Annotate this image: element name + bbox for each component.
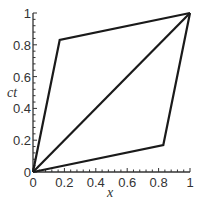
y-tick-label: 0.2 xyxy=(13,133,31,148)
spacetime-diagram: 00.20.40.60.81 00.20.40.60.81 x ct xyxy=(0,0,200,206)
x-tick-label: 0.6 xyxy=(118,175,136,190)
y-tick-label: 0.6 xyxy=(13,70,31,85)
x-axis-label: x xyxy=(106,185,114,200)
y-axis-label: ct xyxy=(7,85,18,100)
y-tick-label: 0 xyxy=(24,165,31,180)
y-tick-label: 0.8 xyxy=(13,38,31,53)
x-tick-label: 0.2 xyxy=(55,175,73,190)
diagonal-line xyxy=(33,13,190,172)
x-tick-label: 0.4 xyxy=(87,175,105,190)
y-tick-label: 1 xyxy=(24,6,31,21)
x-tick-label: 0.8 xyxy=(150,175,168,190)
data-series xyxy=(33,13,190,172)
x-tick-label: 1 xyxy=(186,175,193,190)
y-tick-label: 0.4 xyxy=(13,101,31,116)
